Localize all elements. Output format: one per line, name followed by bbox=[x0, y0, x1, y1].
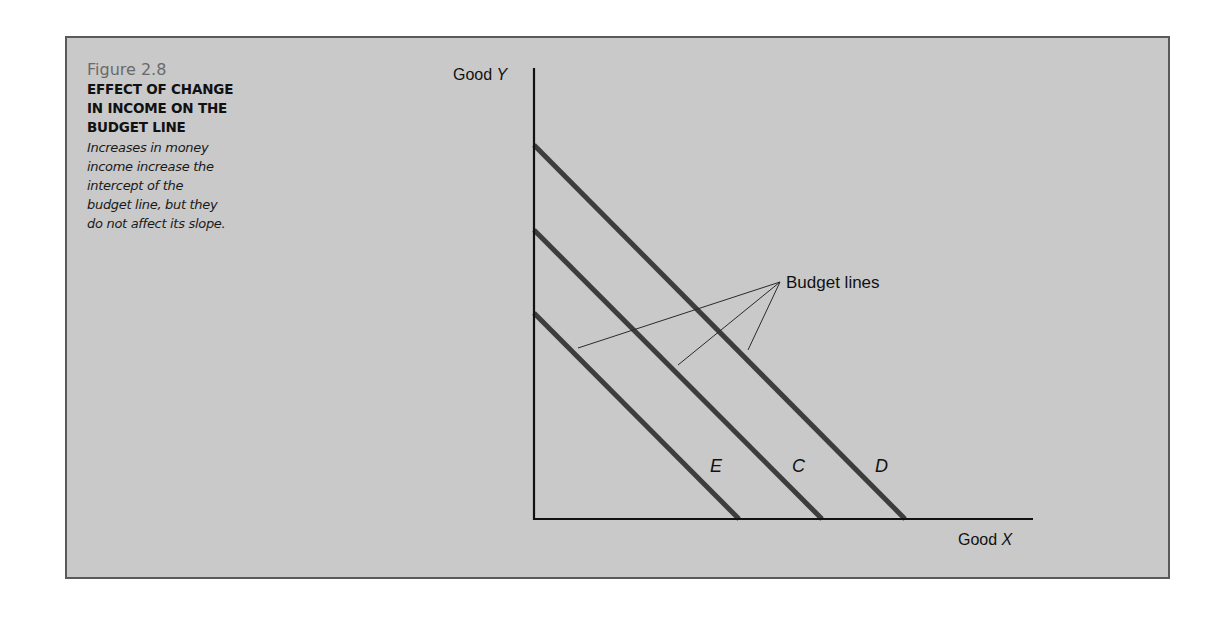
line-label-d: D bbox=[875, 456, 888, 476]
line-label-c: C bbox=[792, 456, 806, 476]
budget-lines-annotation: Budget lines bbox=[786, 273, 880, 292]
line-label-e: E bbox=[710, 456, 723, 476]
leader-line bbox=[748, 282, 780, 350]
x-axis-label: Good X bbox=[958, 531, 1014, 548]
leader-line bbox=[678, 282, 780, 365]
y-axis-label: Good Y bbox=[453, 66, 509, 83]
budget-line-c bbox=[534, 230, 822, 519]
budget-line-chart: Good Y Good X ECD Budget lines bbox=[0, 0, 1225, 619]
budget-line-e bbox=[534, 313, 739, 519]
